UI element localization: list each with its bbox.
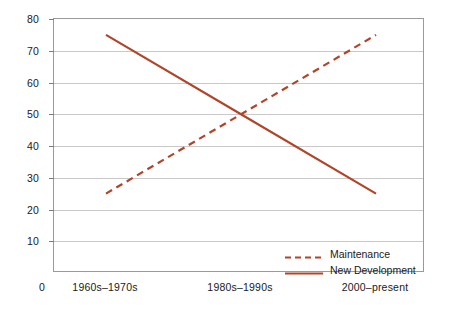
x-axis-label-group: 1960s–1970s 1980s–1990s 2000–present <box>0 0 451 310</box>
line-chart: 80 70 60 50 40 30 20 10 0 <box>0 0 451 310</box>
x-tick-label-2: 2000–present <box>342 282 409 293</box>
x-tick-label-0: 1960s–1970s <box>72 282 137 293</box>
x-tick-label-1: 1980s–1990s <box>207 282 272 293</box>
